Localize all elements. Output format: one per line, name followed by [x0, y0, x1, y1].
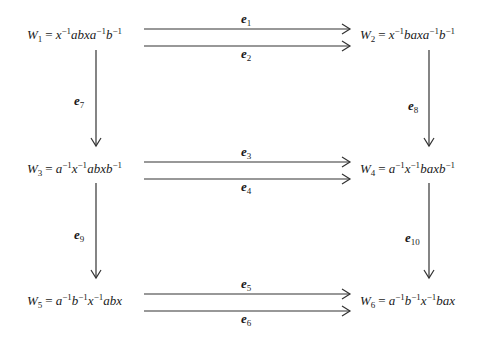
label-e3: e3: [241, 144, 251, 161]
arrow-e9: [91, 183, 101, 278]
label-e4: e4: [241, 179, 251, 196]
node-w4: W4=a−1x−1baxb−1: [360, 160, 455, 178]
node-w3: W3=a−1x−1abxb−1: [27, 160, 122, 178]
label-e1: e1: [241, 11, 251, 28]
node-w1: W1=x−1abxa−1b−1: [27, 26, 122, 44]
label-e10: e10: [405, 230, 420, 247]
node-w2: W2=x−1baxa−1b−1: [360, 26, 455, 44]
arrow-e8: [424, 50, 434, 146]
label-e2: e2: [241, 46, 251, 63]
label-e9: e9: [74, 227, 84, 244]
node-w6: W6=a−1b−1x−1bax: [360, 292, 455, 310]
arrow-e10: [424, 183, 434, 278]
label-e8: e8: [408, 98, 418, 115]
label-e6: e6: [241, 311, 251, 328]
label-e7: e7: [74, 93, 84, 110]
node-w5: W5=a−1b−1x−1abx: [27, 292, 122, 310]
arrow-e7: [91, 50, 101, 146]
label-e5: e5: [241, 276, 251, 293]
